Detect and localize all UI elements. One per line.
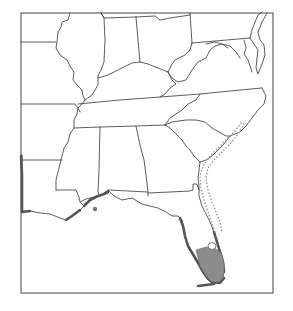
- border-ohio-wv: [168, 43, 192, 72]
- border-illinois-west: [56, 13, 85, 100]
- border-kentucky-virginia: [160, 72, 176, 97]
- border-illinois-kentucky: [85, 76, 98, 100]
- map-svg: [0, 0, 293, 311]
- border-missouri-arkansas: [21, 104, 80, 112]
- border-illinois-indiana: [98, 13, 105, 76]
- border-tennessee-south: [74, 125, 165, 128]
- border-ky-tn-va-nc: [78, 88, 262, 104]
- border-mason-dixon: [192, 38, 250, 43]
- border-louisiana-mississippi: [56, 190, 80, 202]
- border-wv-virginia: [168, 44, 228, 82]
- range-florida-keys: [198, 284, 214, 286]
- range-map: [0, 0, 293, 311]
- border-ohio-river: [98, 62, 168, 78]
- border-georgia-sc: [165, 125, 200, 162]
- range-south-florida-fill: [196, 247, 224, 282]
- border-potomac: [206, 42, 240, 58]
- border-ohio-pennsylvania: [190, 13, 192, 43]
- border-alabama-georgia: [136, 126, 148, 192]
- range-louisiana-west-edge: [21, 156, 30, 212]
- coast-gulf: [22, 190, 222, 284]
- border-mississippi-alabama: [98, 127, 100, 196]
- border-ohio-north: [136, 15, 190, 20]
- border-indiana-north: [101, 13, 136, 18]
- border-delmarva: [250, 12, 267, 74]
- lake-okeechobee: [208, 243, 216, 250]
- state-borders: [21, 12, 267, 284]
- border-mississippi-river: [56, 100, 85, 190]
- border-georgia-florida: [148, 184, 199, 193]
- range-gulf-mississippi: [66, 192, 108, 220]
- border-sc-nc: [165, 120, 230, 136]
- map-frame: [21, 13, 273, 293]
- border-indiana-ohio: [136, 17, 140, 62]
- border-alabama-florida: [108, 190, 148, 196]
- range-coastal-band: [21, 156, 224, 286]
- isolated-record-dot: [93, 207, 97, 211]
- border-chesapeake: [244, 40, 252, 72]
